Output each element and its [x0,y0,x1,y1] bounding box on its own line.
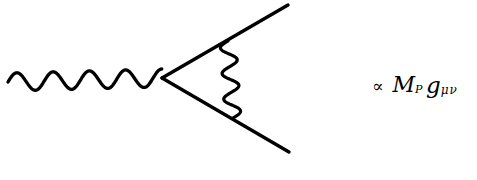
diagram-canvas: ∝ M P g μν [0,0,477,180]
planck-mass-symbol: M [393,74,416,96]
planck-mass-subscript: P [415,84,423,95]
lower-fermion-line [162,78,289,152]
metric-tensor-symbol: g [426,74,441,97]
formula-expression: ∝ M P g μν [372,62,477,108]
internal-wavy-boson-loop-line [220,41,240,118]
incoming-wavy-boson-line [8,69,162,90]
metric-tensor-subscript: μν [441,84,458,96]
proportional-to-symbol: ∝ [372,78,384,95]
